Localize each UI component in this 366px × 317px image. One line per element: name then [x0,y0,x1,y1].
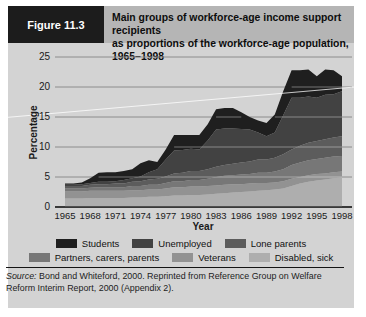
stacked-area-chart [0,0,366,317]
legend-row-1: StudentsUnemployedLone parents [56,237,306,249]
x-axis-title: Year [110,221,296,232]
y-tick-5: 5 [20,171,50,183]
legend-label-partners-carers-parents: Partners, carers, parents [55,252,160,263]
legend-item-students: Students [56,238,120,249]
scanned-figure-page: Figure 11.3 Main groups of workforce-age… [0,0,366,317]
y-tick-25: 25 [20,51,50,63]
legend-label-unemployed: Unemployed [158,238,211,249]
source-label: Source: [6,271,37,281]
legend-swatch-partners-carers-parents [29,253,50,262]
x-tick-1998: 1998 [326,210,358,221]
source-note: Source: Bond and Whiteford, 2000. Reprin… [6,271,344,294]
legend-label-disabled-sick: Disabled, sick [275,252,334,263]
source-text: Bond and Whiteford, 2000. Reprinted from… [6,271,322,293]
legend-item-veterans: Veterans [172,252,236,263]
legend-item-disabled-sick: Disabled, sick [249,252,334,263]
legend-swatch-disabled-sick [249,253,270,262]
legend-swatch-students [56,239,77,248]
legend-item-unemployed: Unemployed [132,238,211,249]
legend-label-veterans: Veterans [198,252,236,263]
y-tick-0: 0 [20,201,50,213]
legend-row-2: Partners, carers, parentsVeteransDisable… [29,251,334,263]
legend-item-partners-carers-parents: Partners, carers, parents [29,252,160,263]
y-tick-10: 10 [20,141,50,153]
legend-item-lone-parents: Lone parents [225,238,306,249]
y-tick-15: 15 [20,111,50,123]
legend-swatch-lone-parents [225,239,246,248]
legend-swatch-unemployed [132,239,153,248]
legend-label-students: Students [82,238,120,249]
legend-swatch-veterans [172,253,193,262]
legend-label-lone-parents: Lone parents [251,238,306,249]
y-tick-20: 20 [20,81,50,93]
source-separator-rule [6,267,344,268]
y-axis-title: Percentage [28,98,39,168]
chart-legend: StudentsUnemployedLone parentsPartners, … [8,237,354,263]
